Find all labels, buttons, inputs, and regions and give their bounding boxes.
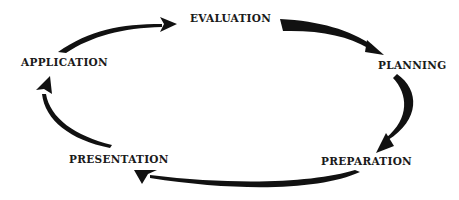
arrow-application-to-evaluation xyxy=(58,17,177,53)
node-planning: PLANNING xyxy=(378,59,447,71)
arrow-planning-to-preparation xyxy=(376,74,413,153)
arrow-evaluation-to-planning xyxy=(280,19,384,55)
node-application: APPLICATION xyxy=(21,56,108,68)
cycle-diagram: EVALUATION PLANNING PREPARATION PRESENTA… xyxy=(0,0,459,200)
cycle-arrows xyxy=(0,0,459,200)
node-preparation: PREPARATION xyxy=(321,155,412,167)
arrow-preparation-to-presentation xyxy=(134,170,360,187)
node-presentation: PRESENTATION xyxy=(69,153,169,165)
arrow-presentation-to-application xyxy=(36,76,112,148)
node-evaluation: EVALUATION xyxy=(190,12,271,24)
